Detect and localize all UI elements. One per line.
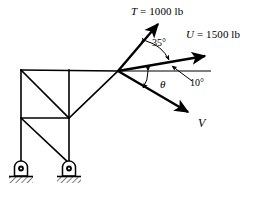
support-right-ground-hatch — [57, 177, 81, 183]
support-right-pin-hole — [68, 168, 70, 170]
force-label-T: T = 1000 lb — [131, 6, 183, 17]
force-label-T-unit: lb — [175, 5, 184, 17]
force-label-V: V — [198, 117, 205, 129]
force-label-U: U = 1500 lb — [186, 29, 240, 40]
member-upper-diagonal — [21, 70, 69, 118]
member-gusset-diagonal — [69, 71, 118, 118]
force-vector-U — [118, 56, 205, 71]
force-label-T-magnitude: 1000 — [149, 5, 171, 17]
angle-label-35: 35° — [152, 38, 166, 48]
support-right — [57, 161, 81, 183]
force-vector-V — [118, 71, 188, 112]
figure-root: T = 1000 lb U = 1500 lb 35° 10° θ V — [0, 0, 259, 200]
angle-10-leader-line — [172, 66, 192, 81]
force-label-T-equals: = — [140, 5, 146, 17]
support-left — [9, 161, 33, 183]
support-left-pin-hole — [20, 168, 22, 170]
force-label-U-unit: lb — [231, 28, 240, 40]
angle-label-10: 10° — [190, 78, 204, 88]
force-label-U-symbol: U — [186, 28, 194, 40]
truss-structure — [21, 70, 118, 163]
support-left-ground-hatch — [9, 177, 33, 183]
force-label-U-magnitude: 1500 — [206, 28, 228, 40]
force-label-U-equals: = — [197, 28, 203, 40]
member-lower-diagonal — [21, 118, 69, 163]
angle-label-theta: θ — [160, 79, 165, 90]
